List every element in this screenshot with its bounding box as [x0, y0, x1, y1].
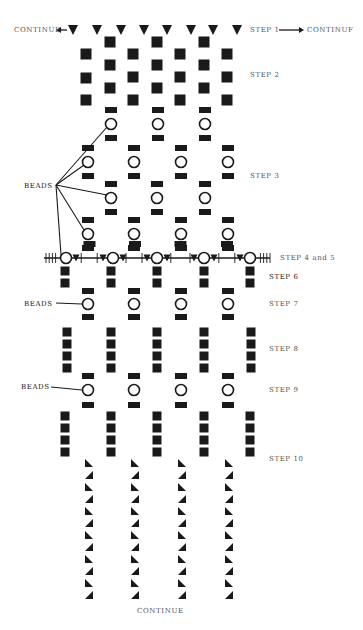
continue-right-label: CONTINUF [307, 26, 353, 34]
tail-triangle-icon [85, 567, 93, 575]
tail-triangle-icon [85, 531, 93, 539]
tail-triangle-icon [225, 567, 233, 575]
step8-square-icon [63, 352, 72, 361]
step6-square-icon [61, 279, 70, 288]
step1-triangle-icon [232, 25, 242, 35]
step8-square-icon [63, 364, 72, 373]
step2-square-icon [105, 60, 116, 71]
step8-square-icon [153, 328, 162, 337]
bar-bead-icon [222, 173, 234, 179]
step45-bead-icon [152, 253, 163, 264]
bar-bead-icon [199, 181, 211, 187]
step10-square-icon [246, 412, 255, 421]
step8-square-icon [63, 340, 72, 349]
bead-circle-icon [223, 385, 234, 396]
step6-label: STEP 6 [269, 273, 299, 281]
tail-triangle-icon [178, 459, 186, 467]
tail-triangle-icon [131, 471, 139, 479]
bar-bead-icon [82, 402, 94, 408]
step45-label: STEP 4 and 5 [280, 254, 335, 262]
bead-circle-icon [200, 119, 211, 130]
bar-bead-icon [128, 314, 140, 320]
step1-triangle-icon [208, 25, 218, 35]
bar-bead-icon [175, 217, 187, 223]
step2-label: STEP 2 [250, 71, 280, 79]
bar-bead-icon [82, 373, 94, 379]
bar-bead-icon [175, 402, 187, 408]
step6-square-icon [246, 267, 255, 276]
tail-triangle-icon [178, 483, 186, 491]
tail-triangle-icon [131, 591, 139, 599]
step8-square-icon [200, 352, 209, 361]
arrow-right-icon [299, 27, 304, 33]
bead-circle-icon [223, 299, 234, 310]
tail-triangle-icon [85, 591, 93, 599]
step9-label: STEP 9 [269, 386, 299, 394]
tail-triangle-icon [85, 543, 93, 551]
step10-square-icon [153, 448, 162, 457]
beads-label-step7: BEADS [24, 300, 53, 308]
step1-triangle-icon [116, 25, 126, 35]
step10-square-icon [153, 424, 162, 433]
step8-square-icon [153, 340, 162, 349]
tail-triangle-icon [131, 483, 139, 491]
bead-circle-icon [129, 299, 140, 310]
bead-circle-icon [83, 229, 94, 240]
beads-leader-line-step7 [56, 303, 82, 304]
bar-bead-icon [175, 373, 187, 379]
step45-bar-icon [175, 241, 187, 247]
beads-label-step3: BEADS [24, 182, 53, 190]
step2-square-icon [81, 73, 92, 84]
beadwork-diagram [0, 0, 363, 630]
bar-bead-icon [151, 209, 163, 215]
step45-bead-icon [245, 253, 256, 264]
step10-square-icon [61, 424, 70, 433]
step2-square-icon [152, 60, 163, 71]
tail-triangle-icon [85, 507, 93, 515]
step6-square-icon [107, 279, 116, 288]
bar-bead-icon [199, 107, 211, 113]
bar-bead-icon [105, 209, 117, 215]
tail-triangle-icon [225, 579, 233, 587]
step1-label: STEP 1 [250, 26, 280, 34]
beads-leader-line-step9 [51, 387, 82, 390]
bar-bead-icon [222, 145, 234, 151]
tail-triangle-icon [131, 579, 139, 587]
tail-triangle-icon [178, 519, 186, 527]
tail-triangle-icon [225, 507, 233, 515]
tail-triangle-icon [178, 543, 186, 551]
tail-triangle-icon [131, 531, 139, 539]
bead-circle-icon [176, 229, 187, 240]
bead-circle-icon [223, 229, 234, 240]
step2-square-icon [105, 83, 116, 94]
tail-triangle-icon [225, 543, 233, 551]
bead-circle-icon [129, 385, 140, 396]
tail-triangle-icon [225, 519, 233, 527]
step10-square-icon [61, 436, 70, 445]
step6-square-icon [200, 279, 209, 288]
step2-square-icon [199, 37, 210, 48]
step10-square-icon [200, 424, 209, 433]
bar-bead-icon [128, 173, 140, 179]
step1-triangle-icon [162, 25, 172, 35]
bar-bead-icon [82, 288, 94, 294]
step45-bar-icon [129, 241, 141, 247]
step2-square-icon [128, 95, 139, 106]
step10-square-icon [107, 424, 116, 433]
step45-bead-icon [199, 253, 210, 264]
step10-square-icon [246, 436, 255, 445]
step7-label: STEP 7 [269, 300, 299, 308]
tail-triangle-icon [225, 471, 233, 479]
tail-triangle-icon [178, 579, 186, 587]
tail-triangle-icon [131, 495, 139, 503]
bead-circle-icon [106, 193, 117, 204]
step6-square-icon [200, 267, 209, 276]
tail-triangle-icon [131, 507, 139, 515]
step8-square-icon [200, 364, 209, 373]
tail-triangle-icon [178, 471, 186, 479]
step8-square-icon [107, 328, 116, 337]
step8-square-icon [153, 364, 162, 373]
bead-circle-icon [83, 299, 94, 310]
step2-square-icon [152, 83, 163, 94]
tail-triangle-icon [85, 471, 93, 479]
